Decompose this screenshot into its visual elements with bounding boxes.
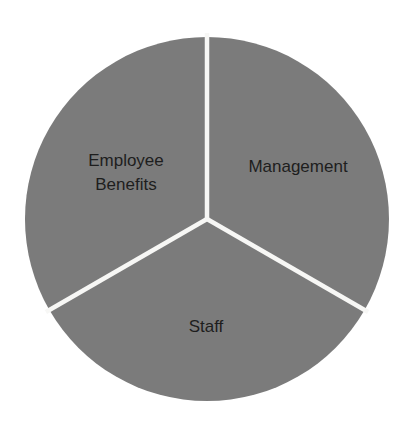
label-management: Management [248, 157, 348, 176]
pie-chart: Management Staff Employee Benefits [0, 0, 409, 428]
label-employee-benefits-line2: Benefits [95, 175, 156, 194]
label-employee-benefits-line1: Employee [88, 151, 164, 170]
label-staff: Staff [189, 317, 224, 336]
